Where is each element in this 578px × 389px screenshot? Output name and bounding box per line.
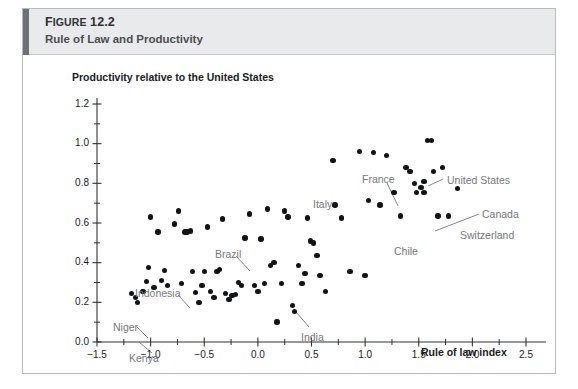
data-point	[292, 309, 297, 314]
x-tick-label: 1.0	[348, 349, 382, 360]
annotation-united-states: United States	[447, 174, 510, 186]
x-tick-label: 1.5	[402, 349, 436, 360]
data-point	[435, 213, 440, 218]
data-point-brazil	[242, 235, 247, 240]
data-point	[317, 273, 322, 278]
scatter-axes: 0.00.20.40.60.81.01.2−1.5−1.0−0.50.00.51…	[23, 55, 557, 374]
annotation-niger: Niger	[113, 321, 138, 333]
data-point	[199, 283, 204, 288]
annotation-italy: Italy	[313, 198, 332, 210]
data-point	[285, 214, 290, 219]
y-tick-label: 0.8	[63, 177, 89, 188]
data-point	[347, 269, 352, 274]
data-point	[172, 221, 177, 226]
data-point	[366, 198, 371, 203]
data-point	[188, 228, 193, 233]
data-point	[255, 289, 260, 294]
y-tick-label: 0.0	[63, 336, 89, 347]
data-point	[148, 214, 153, 219]
data-point	[290, 303, 295, 308]
data-point	[332, 202, 337, 207]
annotation-brazil: Brazil	[215, 248, 241, 260]
x-tick-label: 2.5	[509, 349, 543, 360]
annotation-switzerland: Switzerland	[460, 229, 514, 241]
data-point	[421, 190, 426, 195]
plot-area: Productivity relative to the United Stat…	[23, 55, 557, 374]
data-point	[407, 169, 412, 174]
y-tick-label: 0.2	[63, 296, 89, 307]
figure-number: FIGURE 12.2	[45, 15, 115, 29]
annotation-chile: Chile	[394, 245, 418, 257]
data-point	[211, 295, 216, 300]
data-point	[155, 229, 160, 234]
data-point	[299, 281, 304, 286]
x-tick-label: 2.0	[455, 349, 489, 360]
y-tick-label: 1.0	[63, 137, 89, 148]
x-tick-label: −1.5	[80, 349, 114, 360]
data-point-italy	[330, 158, 335, 163]
data-point	[205, 224, 210, 229]
annotation-kenya: Kenya	[129, 352, 159, 364]
data-point	[220, 216, 225, 221]
data-point	[233, 292, 238, 297]
annotation-indonesia: Indonesia	[135, 287, 181, 299]
data-point	[271, 260, 276, 265]
data-point	[391, 190, 396, 195]
x-tick-label: −0.5	[187, 349, 221, 360]
header-accent-bar	[23, 9, 29, 55]
x-tick-label: 0.5	[295, 349, 329, 360]
data-point	[176, 208, 181, 213]
figure-container: FIGURE 12.2 Rule of Law and Productivity…	[22, 8, 556, 374]
data-point-chile	[377, 202, 382, 207]
data-point	[311, 240, 316, 245]
data-point	[247, 211, 252, 216]
data-point-switzerland	[455, 186, 460, 191]
data-point	[274, 319, 279, 324]
y-tick-label: 0.6	[63, 217, 89, 228]
data-point	[302, 271, 307, 276]
y-tick-label: 1.2	[63, 98, 89, 109]
x-tick-label: 0.0	[241, 349, 275, 360]
data-point	[339, 215, 344, 220]
data-point	[258, 236, 263, 241]
annotation-canada: Canada	[482, 208, 519, 220]
y-tick-label: 0.4	[63, 256, 89, 267]
data-point	[196, 300, 201, 305]
annotation-india: India	[301, 331, 324, 343]
data-point	[398, 213, 403, 218]
figure-title: Rule of Law and Productivity	[45, 33, 203, 45]
annotation-france: France	[362, 173, 395, 185]
data-point	[314, 253, 319, 258]
data-point	[362, 273, 367, 278]
data-point	[305, 215, 310, 220]
figure-header: FIGURE 12.2 Rule of Law and Productivity	[23, 9, 555, 55]
data-point	[265, 206, 270, 211]
data-point-canada	[421, 179, 426, 184]
